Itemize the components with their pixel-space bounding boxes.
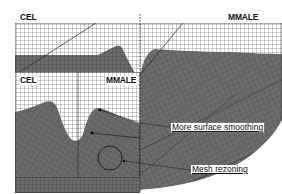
inset-mmale-label: MMALE — [105, 76, 137, 85]
mesh-comparison-figure: CEL MMALE CEL MMALE More surface smoothi… — [0, 0, 282, 194]
annotation-surface-smoothing: More surface smoothing — [170, 122, 265, 133]
main-cel-label: CEL — [20, 13, 36, 22]
inset-cel-label: CEL — [19, 76, 37, 85]
annotation-mesh-rezoning: Mesh rezoning — [191, 165, 249, 174]
inset-panel — [15, 72, 140, 178]
main-mmale-label: MMALE — [228, 13, 258, 22]
